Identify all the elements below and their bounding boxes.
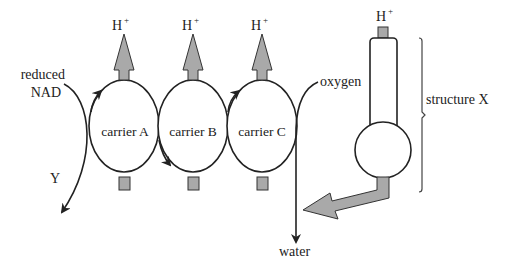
- h-plus-arrow-a: [114, 34, 134, 80]
- h-plus-label-b: H: [182, 18, 192, 33]
- h-plus-sup-x: +: [388, 6, 393, 16]
- carrier-a-base: [119, 177, 130, 190]
- y-label: Y: [50, 171, 60, 186]
- carrier-b-label: carrier B: [169, 124, 217, 139]
- h-plus-sup-c: +: [263, 15, 268, 25]
- carrier-c-base: [257, 177, 268, 190]
- structure-x-top-block: [378, 27, 388, 38]
- nad-to-y-path: [62, 84, 87, 212]
- structure-x-label: structure X: [426, 92, 489, 107]
- oxygen-path: [296, 82, 318, 128]
- h-plus-label-c: H: [251, 18, 261, 33]
- h-plus-sup-b: +: [194, 15, 199, 25]
- oxygen-label: oxygen: [320, 74, 361, 89]
- structure-x-bracket: [419, 38, 425, 192]
- water-label: water: [279, 244, 310, 259]
- carrier-b-base: [188, 177, 199, 190]
- etc-diagram: reduced NAD Y carrier A carrier B carrie…: [0, 0, 506, 261]
- h-plus-sup-a: +: [124, 15, 129, 25]
- h-plus-label-x: H: [376, 9, 386, 24]
- carrier-a-label: carrier A: [101, 124, 149, 139]
- h-plus-label-a: H: [112, 18, 122, 33]
- h-plus-arrow-c: [252, 34, 272, 80]
- reduced-nad-label-line2: NAD: [31, 85, 61, 100]
- h-plus-arrow-b: [183, 34, 203, 80]
- carrier-c-label: carrier C: [238, 124, 286, 139]
- structure-x-output-arrow: [303, 177, 389, 219]
- structure-x-head: [355, 122, 411, 178]
- reduced-nad-label-line1: reduced: [21, 67, 65, 82]
- structure-x-stalk: [370, 38, 397, 134]
